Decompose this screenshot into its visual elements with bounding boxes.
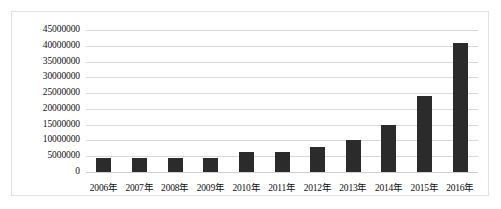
x-axis-tick-label: 2013年 <box>339 183 367 193</box>
bar-slot <box>300 30 336 172</box>
bar-slot <box>264 30 300 172</box>
bar[interactable] <box>453 43 468 172</box>
x-axis-tick: 2008年 <box>157 177 193 195</box>
x-axis-tick-label: 2007年 <box>125 183 153 193</box>
bar-slot <box>86 30 122 172</box>
y-axis: 4500000040000000350000003000000025000000… <box>12 12 86 197</box>
y-axis-tick-label: 15000000 <box>43 120 80 130</box>
y-axis-tick-label: 25000000 <box>43 88 80 98</box>
x-axis-tick: 2007年 <box>122 177 158 195</box>
x-axis-tick: 2013年 <box>335 177 371 195</box>
bar-slot <box>442 30 478 172</box>
x-axis-tick: 2009年 <box>193 177 229 195</box>
bar-slot <box>407 30 443 172</box>
bar[interactable] <box>239 152 254 172</box>
bar-slot <box>335 30 371 172</box>
bar[interactable] <box>168 158 183 173</box>
y-axis-tick-label: 45000000 <box>43 25 80 35</box>
bar-slot <box>157 30 193 172</box>
x-axis-tick-label: 2016年 <box>446 183 474 193</box>
bar-series <box>86 30 478 172</box>
y-axis-tick-label: 10000000 <box>43 136 80 146</box>
x-axis-tick-label: 2009年 <box>197 183 225 193</box>
bar[interactable] <box>96 158 111 172</box>
y-axis-tick-label: 40000000 <box>43 41 80 51</box>
bar[interactable] <box>132 158 147 172</box>
bar[interactable] <box>203 158 218 173</box>
bar-slot <box>122 30 158 172</box>
chart-frame: 4500000040000000350000003000000025000000… <box>11 11 489 196</box>
bar[interactable] <box>275 152 290 172</box>
plot-area <box>86 30 478 172</box>
y-axis-tick-label: 35000000 <box>43 57 80 67</box>
y-axis-tick-label: 20000000 <box>43 104 80 114</box>
x-axis-tick-label: 2011年 <box>268 183 296 193</box>
bar-slot <box>371 30 407 172</box>
x-axis: 2006年2007年2008年2009年2010年2011年2012年2013年… <box>86 177 478 195</box>
x-axis-tick: 2006年 <box>86 177 122 195</box>
y-axis-tick-label: 5000000 <box>47 151 80 161</box>
x-axis-tick: 2011年 <box>264 177 300 195</box>
x-axis-tick: 2016年 <box>442 177 478 195</box>
x-axis-tick: 2012年 <box>300 177 336 195</box>
bar[interactable] <box>346 140 361 173</box>
bar[interactable] <box>310 147 325 172</box>
axis-baseline <box>86 172 478 173</box>
x-axis-tick-label: 2015年 <box>411 183 439 193</box>
bar-slot <box>229 30 265 172</box>
x-axis-tick-label: 2010年 <box>232 183 260 193</box>
y-axis-tick-label: 0 <box>75 167 80 177</box>
bar-slot <box>193 30 229 172</box>
bar[interactable] <box>417 96 432 172</box>
x-axis-tick-label: 2014年 <box>375 183 403 193</box>
x-axis-tick-label: 2008年 <box>161 183 189 193</box>
x-axis-tick: 2014年 <box>371 177 407 195</box>
x-axis-tick-label: 2006年 <box>90 183 118 193</box>
x-axis-tick: 2015年 <box>407 177 443 195</box>
bar[interactable] <box>381 125 396 172</box>
y-axis-tick-label: 30000000 <box>43 73 80 83</box>
x-axis-tick-label: 2012年 <box>304 183 332 193</box>
x-axis-tick: 2010年 <box>229 177 265 195</box>
